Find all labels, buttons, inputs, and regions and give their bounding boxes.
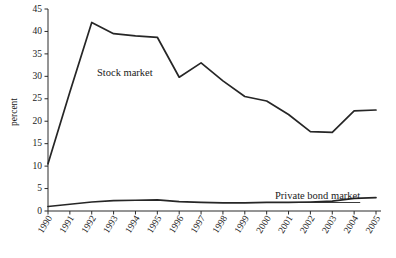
y-axis-ticks: 051015202530354045 — [33, 4, 49, 216]
y-tick-label: 45 — [33, 4, 43, 14]
x-tick-label: 2002 — [298, 214, 317, 236]
x-tick-label: 1994 — [123, 214, 142, 236]
x-tick-label: 1990 — [36, 214, 55, 236]
y-tick-label: 10 — [33, 161, 43, 171]
y-tick-label: 30 — [33, 71, 43, 81]
x-axis-tick-labels: 1990199119921993199419951996199719981999… — [36, 214, 383, 236]
y-axis-title: percent — [9, 98, 19, 126]
x-tick-label: 1992 — [79, 214, 98, 236]
chart-figure: 051015202530354045 percent 1990199119921… — [0, 0, 396, 258]
annotation-private-bond-market: Private bond market — [275, 190, 360, 201]
x-tick-label: 1997 — [189, 214, 208, 236]
data-series-group — [48, 22, 376, 206]
y-tick-label: 0 — [37, 206, 42, 216]
x-tick-label: 1993 — [101, 214, 120, 236]
x-tick-label: 2003 — [320, 214, 339, 236]
series-annotations: Stock market Private bond market — [97, 67, 360, 203]
x-tick-label: 2004 — [342, 214, 361, 236]
x-tick-label: 2000 — [254, 214, 273, 236]
y-tick-label: 40 — [33, 26, 43, 36]
line-chart: 051015202530354045 percent 1990199119921… — [0, 0, 396, 258]
x-tick-label: 1999 — [232, 214, 251, 236]
annotation-stock-market: Stock market — [97, 67, 153, 78]
y-tick-label: 5 — [37, 183, 42, 193]
x-tick-label: 2001 — [276, 214, 295, 236]
x-tick-label: 1998 — [211, 214, 230, 236]
series-line-stock-market — [48, 22, 376, 163]
y-tick-label: 25 — [33, 93, 43, 103]
x-tick-label: 1996 — [167, 214, 186, 236]
y-tick-label: 20 — [33, 116, 43, 126]
x-tick-label: 1991 — [58, 214, 77, 236]
y-tick-label: 35 — [33, 49, 43, 59]
y-axis: 051015202530354045 percent — [9, 4, 48, 216]
x-tick-label: 2005 — [364, 214, 383, 236]
x-axis: 1990199119921993199419951996199719981999… — [36, 211, 383, 235]
x-tick-label: 1995 — [145, 214, 164, 236]
y-tick-label: 15 — [33, 138, 43, 148]
x-axis-ticks — [48, 211, 376, 215]
